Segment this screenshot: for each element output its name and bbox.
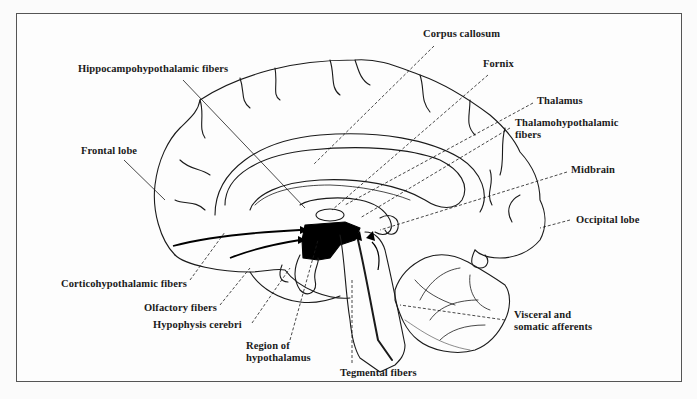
label-hippocampohypothalamic-fibers: Hippocampohypothalamic fibers — [78, 63, 228, 75]
label-region-of-hypothalamus: Region of hypothalamus — [246, 340, 311, 364]
corpus-callosum — [225, 148, 465, 210]
label-frontal-lobe: Frontal lobe — [81, 145, 137, 157]
label-corpus-callosum: Corpus callosum — [423, 28, 500, 40]
label-thalamus: Thalamus — [537, 95, 583, 107]
label-midbrain: Midbrain — [571, 164, 615, 176]
label-hypophysis-cerebri: Hypophysis cerebri — [153, 319, 242, 331]
hypothalamus-nucleus — [302, 222, 360, 260]
label-tegmental-fibers: Tegmental fibers — [340, 367, 417, 379]
label-fornix: Fornix — [483, 58, 514, 70]
thalamus-shape — [316, 209, 344, 221]
brain-diagram — [0, 0, 697, 399]
label-olfactory-fibers: Olfactory fibers — [144, 302, 217, 314]
label-visceral-somatic-afferents: Visceral and somatic afferents — [514, 309, 592, 333]
label-thalamohypothalamic-fibers: Thalamohypothalamic fibers — [515, 117, 618, 141]
label-occipital-lobe: Occipital lobe — [576, 214, 640, 226]
label-corticohypothalamic-fibers: Corticohypothalamic fibers — [61, 278, 187, 290]
